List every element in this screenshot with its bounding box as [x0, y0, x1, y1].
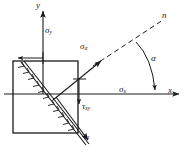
y-axis-label: y: [36, 1, 40, 10]
x-axis-label: x: [168, 86, 172, 95]
tau-xy-sub: xy: [85, 105, 90, 111]
normal-direction-label: n: [162, 11, 167, 20]
figure-canvas: y σy σα n α σx x τxy τα: [0, 0, 190, 159]
diagram-vectors: [0, 0, 190, 159]
sigma-x-label: σx: [119, 85, 126, 95]
angle-alpha-arc: [136, 42, 155, 90]
hatching: [18, 62, 74, 131]
sigma-alpha-sub: α: [84, 45, 87, 51]
tau-alpha-label: τα: [83, 131, 89, 141]
angle-alpha-label: α: [151, 54, 156, 63]
sigma-x-sub: x: [123, 88, 125, 94]
sigma-y-sub: y: [49, 29, 51, 35]
tau-xy-label: τxy: [82, 102, 90, 112]
tau-alpha-sub: α: [86, 134, 89, 140]
sigma-y-label: σy: [45, 26, 52, 36]
sigma-alpha-label: σα: [80, 42, 87, 52]
